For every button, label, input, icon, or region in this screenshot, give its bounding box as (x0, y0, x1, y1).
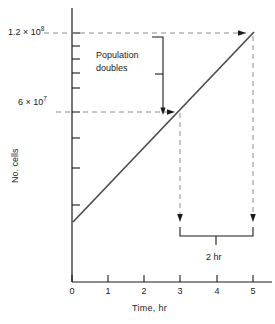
guide-hline-top (44, 30, 246, 36)
y-tick-label-mid-mantissa: 6 × 10 (18, 97, 43, 107)
x-tick-label-3: 3 (170, 286, 190, 297)
y-tick-label-top: 1.2 × 108 (8, 27, 44, 38)
growth-curve-figure: 1.2 × 108 6 × 107 No. cells 0 1 2 3 4 5 … (0, 0, 275, 324)
x-tick-label-1: 1 (98, 286, 118, 297)
y-tick-label-mid-exponent: 7 (43, 95, 47, 102)
y-axis-ticks (72, 33, 80, 205)
annotation-population-doubles-line1: Population (96, 49, 139, 62)
bracket-population-doubles (152, 37, 166, 115)
y-tick-label-mid: 6 × 107 (18, 97, 47, 108)
x-axis-ticks (72, 275, 253, 282)
y-tick-label-top-mantissa: 1.2 × 10 (8, 27, 41, 37)
annotation-population-doubles: Population doubles (96, 49, 139, 75)
x-tick-label-2: 2 (134, 286, 154, 297)
x-axis-title: Time, hr (132, 303, 167, 314)
guide-vline-5hr (250, 36, 256, 222)
annotation-doubling-time: 2 hr (206, 252, 222, 263)
y-tick-label-top-exponent: 8 (41, 25, 45, 32)
y-axis-title: No. cells (10, 136, 21, 196)
x-tick-label-0: 0 (62, 286, 82, 297)
x-tick-label-5: 5 (243, 286, 263, 297)
guide-vline-3hr (177, 113, 183, 222)
annotation-population-doubles-line2: doubles (96, 62, 139, 75)
x-tick-label-4: 4 (207, 286, 227, 297)
bracket-doubling-time (180, 227, 253, 245)
